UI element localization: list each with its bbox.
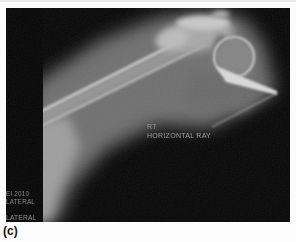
annotation-tech-id-block: EI 2010 LATERAL [6,190,35,206]
film-grain-overlay [6,8,290,222]
annotation-tech-id-line1: EI 2010 [6,190,35,198]
xray-image: RT HORIZONTAL RAY EI 2010 LATERAL LATERA… [6,8,290,222]
annotation-projection-block: RT HORIZONTAL RAY [147,123,211,140]
page-edge-shading [0,0,296,2]
annotation-side-marker: RT [147,123,211,131]
figure-label: (c) [3,224,18,238]
annotation-projection: HORIZONTAL RAY [147,131,211,139]
radiograph-artwork [6,8,290,222]
figure-panel: RT HORIZONTAL RAY EI 2010 LATERAL LATERA… [0,0,296,242]
annotation-tech-id-line2: LATERAL [6,198,35,206]
annotation-position-marker: LATERAL [6,214,37,221]
